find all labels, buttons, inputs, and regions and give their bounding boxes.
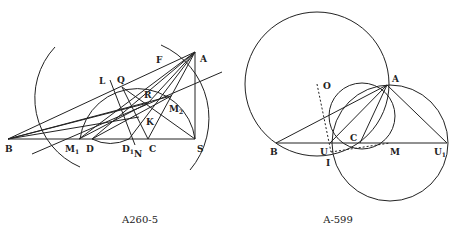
- figure-caption: A-599: [322, 214, 353, 225]
- point-label-d: D: [86, 144, 94, 154]
- point-label-m: M: [390, 147, 400, 157]
- point-label-c: C: [149, 144, 156, 154]
- point-label-s: S: [197, 144, 204, 154]
- segment: [276, 85, 387, 143]
- point-label-r: R: [144, 90, 152, 100]
- point-label-b: B: [5, 144, 13, 154]
- point-label-o: O: [323, 81, 331, 91]
- point-label-n: N: [134, 149, 142, 159]
- figure-canvas: ABSM1DD1NCLQFRKM2A260-5 AOBUCMU1IA-599: [0, 0, 470, 240]
- point-label-a: A: [391, 74, 400, 84]
- segment: [129, 52, 195, 139]
- segment: [32, 72, 222, 154]
- figure-a-599: AOBUCMU1IA-599: [245, 12, 448, 225]
- point-label-a: A: [199, 54, 208, 64]
- segment: [122, 87, 195, 139]
- point-label-q: Q: [117, 75, 125, 85]
- figure-a260-5: ABSM1DD1NCLQFRKM2A260-5: [5, 45, 222, 225]
- segment: [79, 52, 195, 139]
- point-label-i: I: [326, 158, 330, 168]
- segment: [8, 103, 148, 139]
- point-label-c: C: [350, 133, 357, 143]
- segment: [330, 85, 387, 143]
- point-label-u: U: [320, 147, 328, 157]
- point-label-l: L: [99, 76, 106, 86]
- point-label-d1: D1: [122, 144, 134, 155]
- point-label-b: B: [270, 147, 278, 157]
- point-label-f: F: [156, 55, 163, 65]
- point-label-m2: M2: [169, 104, 183, 115]
- arc: [92, 139, 129, 144]
- segment: [79, 103, 148, 139]
- segment: [387, 85, 447, 143]
- point-label-m1: M1: [65, 144, 79, 155]
- dotted-segment: [331, 143, 390, 152]
- point-label-k: K: [146, 117, 155, 127]
- figure-caption: A260-5: [121, 214, 158, 225]
- point-label-u1: U1: [434, 147, 446, 158]
